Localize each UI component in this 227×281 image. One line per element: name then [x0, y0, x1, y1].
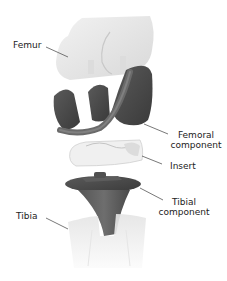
knee-implant-diagram: Femur Femoral component Insert Tibial co… — [0, 0, 227, 281]
label-tibia: Tibia — [16, 211, 37, 221]
label-tibial-component-line2: component — [156, 207, 212, 217]
label-tibial-component-line1: Tibial — [156, 197, 212, 207]
label-femur: Femur — [13, 40, 41, 50]
label-tibial-component: Tibial component — [156, 197, 212, 217]
label-femoral-component-line2: component — [168, 140, 224, 150]
label-femoral-component: Femoral component — [168, 130, 224, 150]
insert-component — [70, 140, 143, 166]
label-insert: Insert — [170, 161, 196, 171]
tibia-leader-line — [46, 218, 68, 229]
label-femoral-component-line1: Femoral — [168, 130, 224, 140]
femoral-component-leader-line — [144, 124, 168, 134]
insert-leader-line — [142, 156, 162, 164]
